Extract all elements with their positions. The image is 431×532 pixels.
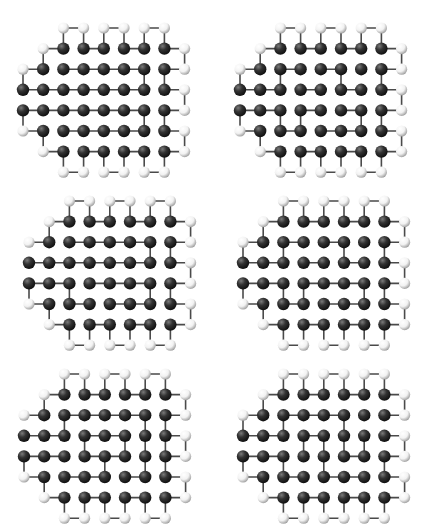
carbon-atom bbox=[17, 84, 29, 96]
carbon-atom bbox=[378, 215, 390, 227]
carbon-atom bbox=[57, 125, 69, 137]
hydrogen-atom bbox=[179, 84, 190, 95]
hydrogen-atom bbox=[318, 340, 329, 351]
hydrogen-atom bbox=[396, 64, 407, 75]
carbon-atom bbox=[18, 450, 30, 462]
hydrogen-atom bbox=[98, 22, 109, 33]
hydrogen-atom bbox=[44, 216, 55, 227]
carbon-atom bbox=[104, 298, 116, 310]
carbon-atom bbox=[318, 430, 330, 442]
carbon-atom bbox=[98, 63, 110, 75]
carbon-atom bbox=[378, 277, 390, 289]
carbon-atom bbox=[254, 104, 266, 116]
carbon-atom bbox=[98, 145, 110, 157]
hydrogen-atom bbox=[79, 368, 90, 379]
hydrogen-atom bbox=[315, 22, 326, 33]
carbon-atom bbox=[257, 298, 269, 310]
carbon-atom bbox=[104, 318, 116, 330]
carbon-atom bbox=[77, 125, 89, 137]
carbon-atom bbox=[99, 388, 111, 400]
hydrogen-atom bbox=[180, 410, 191, 421]
hydrogen-atom bbox=[180, 430, 191, 441]
carbon-atom bbox=[254, 84, 266, 96]
hydrogen-atom bbox=[140, 368, 151, 379]
carbon-atom bbox=[277, 430, 289, 442]
hydrogen-atom bbox=[180, 471, 191, 482]
carbon-atom bbox=[159, 388, 171, 400]
hydrogen-atom bbox=[23, 298, 34, 309]
carbon-atom bbox=[297, 409, 309, 421]
carbon-atom bbox=[119, 409, 131, 421]
carbon-atom bbox=[257, 450, 269, 462]
carbon-atom bbox=[274, 42, 286, 54]
carbon-atom bbox=[119, 388, 131, 400]
hydrogen-atom bbox=[379, 513, 390, 524]
carbon-atom bbox=[119, 430, 131, 442]
carbon-atom bbox=[335, 63, 347, 75]
carbon-atom bbox=[338, 471, 350, 483]
carbon-atom bbox=[297, 236, 309, 248]
carbon-atom bbox=[58, 388, 70, 400]
carbon-atom bbox=[378, 257, 390, 269]
carbon-atom bbox=[355, 125, 367, 137]
carbon-atom bbox=[98, 84, 110, 96]
carbon-atom bbox=[338, 277, 350, 289]
carbon-atom bbox=[338, 236, 350, 248]
carbon-atom bbox=[338, 257, 350, 269]
carbon-atom bbox=[294, 125, 306, 137]
carbon-atom bbox=[378, 471, 390, 483]
carbon-atom bbox=[335, 42, 347, 54]
carbon-atom bbox=[124, 298, 136, 310]
hydrogen-atom bbox=[99, 368, 110, 379]
hydrogen-atom bbox=[298, 195, 309, 206]
carbon-atom bbox=[57, 63, 69, 75]
carbon-atom bbox=[139, 388, 151, 400]
hydrogen-atom bbox=[237, 237, 248, 248]
hydrogen-atom bbox=[379, 340, 390, 351]
hydrogen-atom bbox=[64, 195, 75, 206]
carbon-atom bbox=[119, 471, 131, 483]
carbon-atom bbox=[358, 318, 370, 330]
carbon-atom bbox=[98, 42, 110, 54]
hydrogen-atom bbox=[18, 471, 29, 482]
carbon-atom bbox=[164, 277, 176, 289]
hydrogen-atom bbox=[59, 368, 70, 379]
carbon-atom bbox=[119, 450, 131, 462]
carbon-atom bbox=[78, 409, 90, 421]
carbon-atom bbox=[338, 215, 350, 227]
hydrogen-atom bbox=[298, 368, 309, 379]
carbon-atom bbox=[38, 471, 50, 483]
carbon-atom bbox=[78, 450, 90, 462]
hydrogen-atom bbox=[17, 125, 28, 136]
carbon-atom bbox=[124, 318, 136, 330]
hydrogen-atom bbox=[318, 368, 329, 379]
carbon-atom bbox=[277, 491, 289, 503]
carbon-atom bbox=[315, 145, 327, 157]
carbon-atom bbox=[37, 84, 49, 96]
carbon-atom bbox=[124, 215, 136, 227]
hydrogen-atom bbox=[17, 64, 28, 75]
hydrogen-atom bbox=[258, 216, 269, 227]
carbon-atom bbox=[297, 430, 309, 442]
hydrogen-atom bbox=[379, 368, 390, 379]
lattice-figure bbox=[0, 0, 431, 532]
carbon-atom bbox=[294, 145, 306, 157]
carbon-atom bbox=[277, 257, 289, 269]
carbon-atom bbox=[335, 125, 347, 137]
hydrogen-atom bbox=[399, 237, 410, 248]
carbon-atom bbox=[237, 430, 249, 442]
carbon-atom bbox=[77, 104, 89, 116]
hydrogen-atom bbox=[180, 451, 191, 462]
hydrogen-atom bbox=[179, 64, 190, 75]
hydrogen-atom bbox=[84, 340, 95, 351]
carbon-atom bbox=[297, 491, 309, 503]
hydrogen-atom bbox=[356, 167, 367, 178]
hydrogen-atom bbox=[118, 167, 129, 178]
hydrogen-atom bbox=[295, 22, 306, 33]
hydrogen-atom bbox=[159, 22, 170, 33]
carbon-atom bbox=[358, 471, 370, 483]
carbon-atom bbox=[355, 145, 367, 157]
hydrogen-atom bbox=[39, 389, 50, 400]
hydrogen-atom bbox=[84, 195, 95, 206]
hydrogen-atom bbox=[104, 340, 115, 351]
